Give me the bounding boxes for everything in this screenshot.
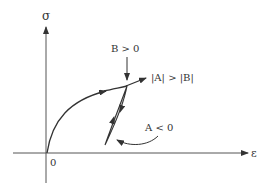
epsilon-axis-label: ε: [251, 147, 257, 160]
origin-label: 0: [50, 157, 56, 168]
a-pointer-arrow: [117, 136, 158, 145]
stress-strain-diagram: σ ε 0 B > 0 |A| > |B| A < 0: [0, 0, 261, 193]
magnitude-condition-label: |A| > |B|: [151, 72, 194, 84]
loading-curve: [47, 78, 146, 153]
sigma-axis-label: σ: [42, 9, 50, 23]
a-condition-label: A < 0: [144, 122, 173, 133]
hysteresis-loop: [105, 86, 127, 145]
b-condition-label: B > 0: [111, 43, 139, 54]
